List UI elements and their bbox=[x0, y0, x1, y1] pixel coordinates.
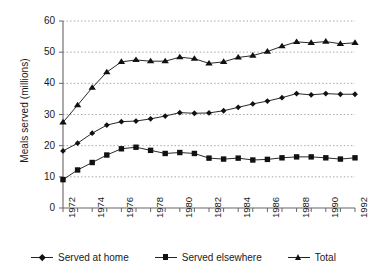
diamond-marker-icon bbox=[31, 253, 53, 262]
data-point bbox=[75, 167, 80, 172]
data-point bbox=[89, 130, 95, 136]
legend-label: Served elsewhere bbox=[182, 252, 262, 263]
data-point bbox=[322, 38, 329, 44]
y-tick-label: 40 bbox=[31, 78, 55, 88]
y-tick-label: 50 bbox=[31, 47, 55, 57]
data-point bbox=[221, 108, 227, 114]
data-point bbox=[279, 155, 284, 160]
data-point bbox=[192, 110, 198, 116]
x-tick-label: 1990 bbox=[330, 197, 339, 218]
y-axis-label: Meals served (millions) bbox=[19, 21, 30, 201]
legend-label: Served at home bbox=[58, 252, 129, 263]
x-tick-label: 1972 bbox=[67, 197, 76, 218]
y-tick-label: 30 bbox=[31, 110, 55, 120]
legend-item-total[interactable]: Total bbox=[288, 252, 336, 263]
data-point bbox=[294, 91, 300, 97]
data-point bbox=[163, 151, 168, 156]
data-point bbox=[352, 155, 357, 160]
data-point bbox=[265, 98, 271, 104]
data-point bbox=[293, 38, 300, 44]
x-tick-label: 1974 bbox=[96, 197, 105, 218]
data-point bbox=[90, 160, 95, 165]
square-marker-icon bbox=[155, 253, 177, 262]
y-tick-label: 10 bbox=[31, 172, 55, 182]
data-point bbox=[176, 54, 183, 60]
chart-legend: Served at home Served elsewhere Total bbox=[0, 252, 367, 263]
data-point bbox=[309, 154, 314, 159]
legend-item-served-elsewhere[interactable]: Served elsewhere bbox=[155, 252, 262, 263]
data-point bbox=[148, 148, 153, 153]
data-point bbox=[104, 152, 109, 157]
series-served-at-home bbox=[60, 91, 358, 154]
data-point bbox=[221, 156, 226, 161]
data-point bbox=[119, 119, 125, 125]
data-point bbox=[132, 56, 139, 62]
data-point bbox=[148, 116, 154, 122]
series-served-elsewhere bbox=[60, 145, 357, 183]
data-point bbox=[308, 39, 315, 45]
x-tick-label: 1976 bbox=[125, 197, 134, 218]
data-point bbox=[133, 118, 139, 124]
data-point bbox=[192, 151, 197, 156]
data-point bbox=[294, 154, 299, 159]
data-point bbox=[323, 91, 329, 97]
data-point bbox=[133, 145, 138, 150]
x-tick-label: 1988 bbox=[301, 197, 310, 218]
data-point bbox=[119, 146, 124, 151]
data-point bbox=[177, 150, 182, 155]
data-point bbox=[338, 156, 343, 161]
x-axis-ticks bbox=[63, 208, 355, 212]
x-tick-label: 1992 bbox=[359, 197, 368, 218]
data-point bbox=[351, 39, 358, 45]
data-point bbox=[206, 110, 212, 116]
data-point bbox=[235, 104, 241, 110]
y-tick-label: 0 bbox=[31, 203, 55, 213]
data-point bbox=[265, 157, 270, 162]
x-tick-label: 1982 bbox=[213, 197, 222, 218]
x-tick-label: 1978 bbox=[155, 197, 164, 218]
data-point bbox=[75, 140, 81, 146]
data-point bbox=[279, 95, 285, 101]
data-point bbox=[60, 177, 65, 182]
data-point bbox=[60, 148, 66, 154]
data-point bbox=[338, 91, 344, 97]
y-tick-label: 60 bbox=[31, 16, 55, 26]
data-series-layer bbox=[59, 38, 358, 182]
y-tick-label: 20 bbox=[31, 141, 55, 151]
x-tick-label: 1984 bbox=[242, 197, 251, 218]
data-point bbox=[206, 155, 211, 160]
data-point bbox=[250, 157, 255, 162]
data-point bbox=[162, 113, 168, 119]
data-point bbox=[103, 69, 110, 75]
data-point bbox=[250, 101, 256, 107]
data-point bbox=[236, 155, 241, 160]
legend-label: Total bbox=[315, 252, 336, 263]
data-point bbox=[352, 91, 358, 97]
legend-item-served-at-home[interactable]: Served at home bbox=[31, 252, 129, 263]
data-point bbox=[323, 155, 328, 160]
data-point bbox=[308, 92, 314, 98]
triangle-marker-icon bbox=[288, 253, 310, 262]
x-tick-label: 1986 bbox=[271, 197, 280, 218]
x-tick-label: 1980 bbox=[184, 197, 193, 218]
data-point bbox=[104, 122, 110, 128]
